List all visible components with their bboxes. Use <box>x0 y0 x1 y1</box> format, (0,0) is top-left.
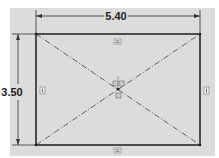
width-dimension-value: 5.40 <box>105 10 126 22</box>
height-dimension-value: 3.50 <box>1 86 22 98</box>
vertical-relation-icon <box>40 87 45 94</box>
sketch-drawing: 5.40 3.50 <box>0 0 219 158</box>
horizontal-relation-icon <box>114 148 121 153</box>
height-dimension[interactable]: 3.50 <box>1 34 36 145</box>
width-dimension[interactable]: 5.40 <box>36 10 200 34</box>
vertical-relation-icon <box>204 87 209 94</box>
horizontal-relation-icon <box>114 39 121 44</box>
